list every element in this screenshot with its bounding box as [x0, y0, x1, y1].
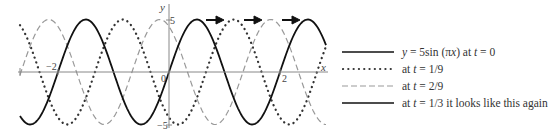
legend-label: y = 5sin (πx) at t = 0: [402, 46, 495, 58]
x-axis-label: x: [320, 61, 326, 73]
tick-label-neg5: −5: [157, 120, 168, 130]
arrow-right-icon: [206, 16, 224, 24]
legend-label: at t = 1/3 it looks like this again: [402, 97, 548, 109]
tick-label-neg2: −2: [46, 61, 57, 72]
legend-item-t1-3: at t = 1/3 it looks like this again: [342, 96, 548, 110]
legend-item-t1-9: at t = 1/9: [342, 62, 443, 76]
arrow-right-icon: [244, 16, 262, 24]
origin-label: 0: [161, 73, 166, 84]
legend: y = 5sin (πx) at t = 0 at t = 1/9 at t =…: [342, 0, 547, 130]
legend-item-t0: y = 5sin (πx) at t = 0: [342, 45, 495, 59]
dotted-line-swatch: [342, 66, 394, 72]
tick-label-5: 5: [170, 15, 175, 26]
solid-line-swatch: [342, 100, 394, 106]
tick-label-2: 2: [282, 73, 287, 84]
wave-plot: y x −2 2 0 5 −5: [0, 0, 340, 130]
direction-arrows: [206, 16, 300, 24]
legend-label: at t = 1/9: [402, 63, 443, 75]
y-axis-label: y: [159, 1, 165, 13]
dashed-line-swatch: [342, 83, 394, 89]
solid-line-swatch: [342, 49, 394, 55]
legend-item-t2-9: at t = 2/9: [342, 79, 443, 93]
arrow-right-icon: [282, 16, 300, 24]
legend-label: at t = 2/9: [402, 80, 443, 92]
